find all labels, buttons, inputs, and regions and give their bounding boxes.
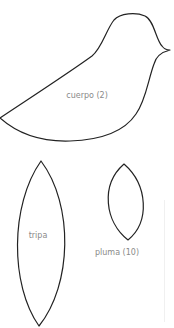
pattern-shapes [0,0,174,328]
tripa-shape [17,161,64,326]
tripa-label: tripa [29,232,48,240]
bird-body-shape [0,14,170,141]
pluma-label: pluma (10) [95,249,139,257]
pluma-shape [108,164,143,240]
page-edge-divider [164,200,165,322]
cuerpo-label: cuerpo (2) [66,92,108,100]
sewing-pattern-page: cuerpo (2) tripa pluma (10) [0,0,174,328]
